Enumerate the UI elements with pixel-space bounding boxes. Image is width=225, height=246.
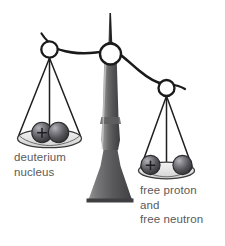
stand-pointer-needle xyxy=(108,13,112,44)
left-pan-assembly xyxy=(18,58,82,148)
left-pan-label-line1: deuterium xyxy=(14,150,66,165)
right-pan-assembly xyxy=(139,96,195,179)
balance-stand xyxy=(87,13,134,203)
right-pan-label: free proton and free neutron xyxy=(140,183,203,227)
stand-base xyxy=(87,150,133,201)
right-pan-label-line1: free proton xyxy=(140,183,203,198)
left-pan-label-line2: nucleus xyxy=(14,165,66,180)
left-pan-neutron-sphere xyxy=(48,122,68,142)
stand-base-lip xyxy=(87,199,134,203)
balance-scale-figure: deuterium nucleus free proton and free n… xyxy=(0,0,225,246)
right-pivot-ring xyxy=(159,80,175,96)
right-pan-neutron-sphere xyxy=(173,155,192,174)
right-pan-label-line3: free neutron xyxy=(140,212,203,227)
left-pan-label: deuterium nucleus xyxy=(14,150,66,179)
right-pan-label-line2: and xyxy=(140,198,203,213)
left-pivot-ring xyxy=(41,41,57,57)
center-pivot-ring xyxy=(100,44,121,65)
